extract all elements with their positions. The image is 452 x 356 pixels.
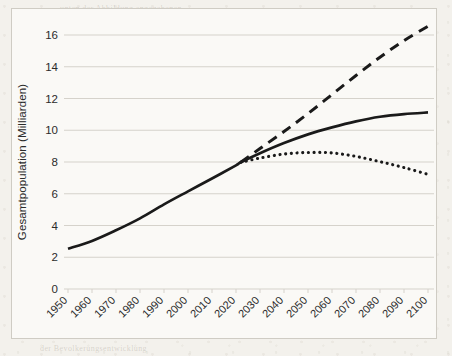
y-tick-label: 2 (52, 251, 58, 263)
y-tick-label: 6 (52, 188, 58, 200)
y-tick-label: 8 (52, 156, 58, 168)
y-tick-label: 12 (45, 93, 58, 105)
y-tick-label: 10 (45, 124, 58, 136)
y-axis-title: Gesamtpopulation (Milliarden) (16, 84, 28, 240)
y-tick-label: 14 (45, 61, 58, 73)
figure-container: unten der Abbildung angegebenen Anteil d… (0, 0, 452, 356)
y-tick-label: 0 (52, 283, 58, 295)
y-tick-label: 16 (45, 29, 58, 41)
population-projection-chart: 0246810121416 19501960197019801990200020… (0, 0, 452, 356)
y-tick-label: 4 (52, 220, 59, 232)
